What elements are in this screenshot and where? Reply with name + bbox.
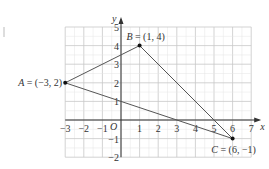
y-tick-label: −1 (108, 134, 119, 145)
y-tick-label: 1 (114, 96, 119, 107)
x-tick-label: 7 (249, 123, 254, 134)
x-axis-label: x (259, 121, 265, 132)
x-tick-label: 1 (137, 123, 142, 134)
point-a (63, 81, 67, 85)
y-tick-label: 5 (114, 22, 119, 33)
axes: xyO (65, 13, 265, 157)
x-tick-label: 4 (193, 123, 198, 134)
points: A = (−3, 2)B = (1, 4)C = (6, −1) (17, 31, 256, 156)
y-tick-label: 2 (114, 78, 119, 89)
point-label-b: B = (1, 4) (126, 31, 164, 43)
y-axis-arrow (119, 17, 124, 24)
x-tick-label: 2 (156, 123, 161, 134)
y-tick-label: 4 (114, 41, 119, 52)
y-tick-label: −2 (108, 152, 119, 163)
x-tick-label: 3 (174, 123, 179, 134)
x-tick-label: −1 (97, 123, 108, 134)
point-label-a: A = (−3, 2) (17, 77, 62, 89)
y-tick-label: 3 (114, 59, 119, 70)
margin-mark (3, 27, 5, 37)
x-tick-label: −2 (78, 123, 89, 134)
point-b (138, 44, 142, 48)
point-label-c: C = (6, −1) (211, 144, 256, 156)
x-tick-label: −3 (60, 123, 71, 134)
origin-label: O (110, 121, 117, 132)
tick-labels: −3−2−11234567−2−112345 (60, 22, 254, 163)
x-tick-label: 6 (230, 123, 235, 134)
coordinate-plane: xyO −3−2−11234567−2−112345 A = (−3, 2)B … (0, 0, 269, 169)
point-c (231, 137, 235, 141)
